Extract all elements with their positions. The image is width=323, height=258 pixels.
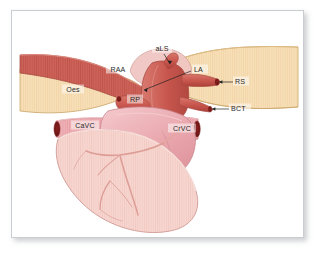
label-CrVC: CrVC (168, 124, 196, 133)
label-RS-text: RS (235, 78, 245, 86)
label-RP-text: RP (130, 96, 140, 104)
label-BCT-text: BCT (231, 105, 246, 113)
label-CaVC: CaVC (71, 121, 99, 130)
anatomy-illustration: aLS RAA LA RS BCT (12, 11, 305, 239)
label-CaVC-text: CaVC (75, 122, 95, 130)
label-aLS-text: aLS (155, 45, 168, 53)
label-RS: RS (233, 77, 249, 86)
label-CrVC-text: CrVC (173, 125, 191, 133)
label-RAA: RAA (106, 65, 130, 74)
screenshot-root: aLS RAA LA RS BCT (0, 0, 323, 258)
label-LA-text: LA (194, 66, 203, 74)
label-Oes-text: Oes (66, 86, 80, 94)
label-RP: RP (127, 95, 143, 104)
label-aLS: aLS (152, 44, 172, 53)
label-Oes: Oes (62, 85, 84, 94)
figure-card: aLS RAA LA RS BCT (11, 10, 304, 238)
label-BCT: BCT (229, 104, 251, 113)
label-LA: LA (192, 65, 208, 74)
label-RAA-text: RAA (110, 66, 125, 74)
